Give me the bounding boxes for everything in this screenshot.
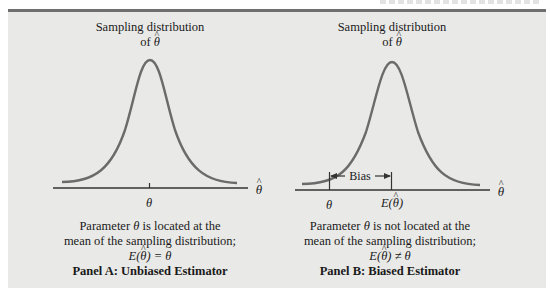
theta-hat-symbol: θ — [154, 35, 160, 50]
panel-a-curve-label: Sampling distribution of θ — [60, 20, 240, 50]
panel-b-curve-label-line2: of θ — [302, 35, 482, 50]
panel-a-curve-label-line1: Sampling distribution — [60, 20, 240, 35]
panel-b-bias-label: Bias — [344, 169, 376, 184]
panel-b-title: Panel B: Biased Estimator — [290, 264, 490, 279]
panel-b-theta-label: θ — [322, 198, 336, 213]
panel-b-curve-label-line1: Sampling distribution — [302, 20, 482, 35]
panel-a-caption-line1: Parameter θ is located at the — [40, 219, 260, 234]
panel-b-caption: Parameter θ is not located at the mean o… — [290, 219, 490, 264]
panel-b-graphics — [295, 62, 490, 190]
panel-a-curve-label-line2: of θ — [60, 35, 240, 50]
panel-a-theta-label: θ — [142, 196, 156, 211]
panel-a-caption-equation: E(θ) = θ — [40, 249, 260, 264]
panel-b-caption-line1: Parameter θ is not located at the — [290, 219, 490, 234]
panel-b-normal-curve — [302, 62, 480, 185]
theta-hat-symbol: θ — [396, 35, 402, 50]
panel-b-expectation-label: E(θ) — [372, 196, 412, 211]
panel-a-caption-line2: mean of the sampling distribution; — [40, 234, 260, 249]
panel-b-axis-label: θ — [494, 184, 508, 199]
panel-a-caption: Parameter θ is located at the mean of th… — [40, 219, 260, 264]
panel-a-graphics — [53, 60, 248, 188]
panel-b-curve-label: Sampling distribution of θ — [302, 20, 482, 50]
panel-a-title: Panel A: Unbiased Estimator — [40, 264, 260, 279]
panel-b-caption-line2: mean of the sampling distribution; — [290, 234, 490, 249]
bias-arrow-right-head — [384, 173, 391, 179]
panel-a-axis-label: θ — [252, 182, 266, 197]
panel-a-normal-curve — [62, 60, 237, 183]
panel-b-caption-equation: E(θ) ≠ θ — [290, 249, 490, 264]
